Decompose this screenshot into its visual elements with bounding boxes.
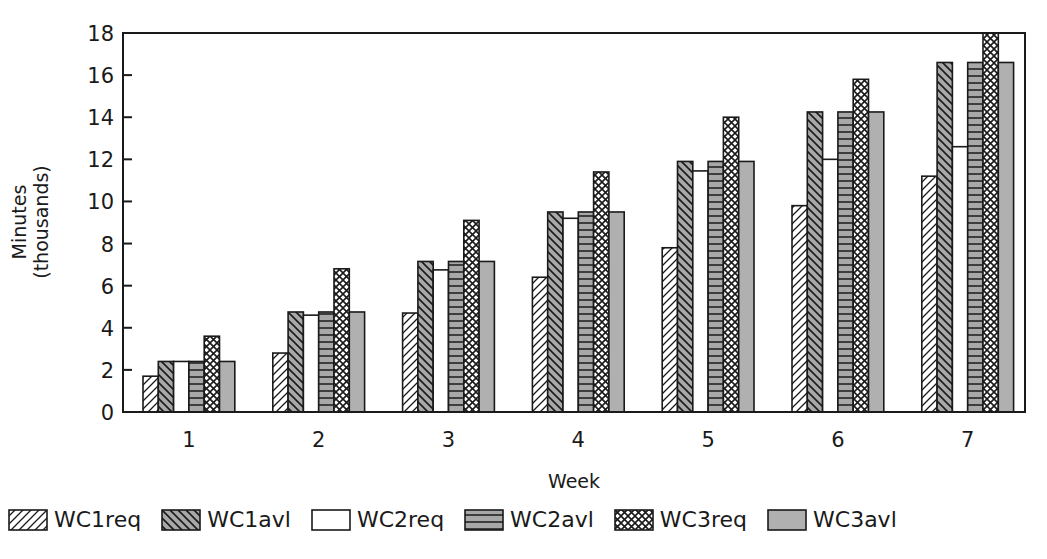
legend-swatch-horizontal-icon	[464, 509, 504, 531]
y-tick-label: 4	[101, 317, 114, 341]
legend-item-wc2avl: WC2avl	[464, 507, 594, 532]
bar-wc3req-week-5	[723, 117, 738, 412]
bar-wc2req-week-7	[952, 147, 967, 412]
bar-wc2avl-week-4	[578, 212, 593, 412]
bar-wc3req-week-6	[853, 79, 868, 412]
x-tick-label: 4	[572, 428, 585, 452]
bar-wc2req-week-6	[823, 159, 838, 412]
x-axis-title: Week	[548, 470, 600, 492]
bar-wc3avl-week-3	[479, 261, 494, 412]
y-tick-label: 14	[87, 106, 114, 130]
y-tick-label: 10	[87, 190, 114, 214]
legend-swatch-solid-icon	[767, 509, 807, 531]
bar-wc2req-week-4	[563, 218, 578, 412]
x-tick-label: 5	[701, 428, 714, 452]
bar-wc2req-week-3	[433, 270, 448, 412]
y-axis-title-line: Minutes	[8, 185, 30, 260]
legend-label: WC2req	[357, 507, 444, 532]
bar-wc2avl-week-6	[838, 112, 853, 412]
bar-chart: Minutes(thousands) 024681012141618 12345…	[0, 0, 1047, 500]
bar-wc2avl-week-7	[968, 62, 983, 412]
bar-wc2avl-week-3	[449, 261, 464, 412]
bar-wc3avl-week-5	[739, 161, 754, 412]
y-tick-label: 18	[87, 22, 114, 46]
bar-wc1avl-week-3	[418, 261, 433, 412]
bar-wc3req-week-3	[464, 220, 479, 412]
bar-wc1req-week-2	[273, 353, 288, 412]
x-axis: 1234567	[182, 428, 974, 452]
bar-wc1req-week-3	[403, 313, 418, 412]
legend-label: WC2avl	[510, 507, 594, 532]
bar-wc3avl-week-4	[609, 212, 624, 412]
bar-wc3req-week-1	[204, 336, 219, 412]
y-tick-label: 6	[101, 275, 114, 299]
bar-wc3avl-week-2	[349, 312, 364, 412]
bar-wc1req-week-4	[532, 277, 547, 412]
legend-swatch-diagonal-up-icon	[8, 509, 48, 531]
legend-label: WC3req	[660, 507, 747, 532]
x-tick-label: 2	[312, 428, 325, 452]
bar-wc2req-week-2	[303, 315, 318, 412]
legend-item-wc2req: WC2req	[311, 507, 444, 532]
legend-item-wc3req: WC3req	[614, 507, 747, 532]
bar-wc1avl-week-7	[937, 62, 952, 412]
bar-wc3avl-week-6	[869, 112, 884, 412]
x-tick-label: 3	[442, 428, 455, 452]
y-tick-label: 2	[101, 359, 114, 383]
legend-item-wc3avl: WC3avl	[767, 507, 897, 532]
y-tick-label: 16	[87, 64, 114, 88]
bar-wc2avl-week-5	[708, 161, 723, 412]
bar-wc3req-week-7	[983, 33, 998, 412]
y-tick-label: 8	[101, 233, 114, 257]
bar-wc1avl-week-5	[678, 161, 693, 412]
bar-wc2req-week-1	[174, 361, 189, 412]
legend-label: WC3avl	[813, 507, 897, 532]
y-tick-label: 0	[101, 401, 114, 425]
bar-wc2req-week-5	[693, 171, 708, 412]
y-axis-title: Minutes(thousands)	[8, 165, 52, 279]
bar-wc3req-week-4	[594, 172, 609, 412]
legend-label: WC1avl	[207, 507, 291, 532]
x-tick-label: 1	[182, 428, 195, 452]
bar-wc3req-week-2	[334, 269, 349, 412]
y-axis: 024681012141618	[87, 22, 132, 425]
legend-item-wc1req: WC1req	[8, 507, 141, 532]
x-tick-label: 7	[961, 428, 974, 452]
y-axis-title-line: (thousands)	[30, 165, 52, 279]
bar-series	[143, 33, 1014, 412]
legend-swatch-crosshatch-icon	[614, 509, 654, 531]
bar-wc1avl-week-6	[807, 112, 822, 412]
chart-legend: WC1reqWC1avlWC2reqWC2avlWC3reqWC3avl	[8, 507, 917, 532]
bar-wc1avl-week-1	[158, 361, 173, 412]
bar-wc1req-week-1	[143, 376, 158, 412]
bar-wc3avl-week-1	[220, 361, 235, 412]
bar-wc3avl-week-7	[998, 62, 1013, 412]
x-tick-label: 6	[831, 428, 844, 452]
bar-wc1req-week-5	[662, 248, 677, 412]
bar-wc1req-week-7	[922, 176, 937, 412]
bar-wc1avl-week-4	[548, 212, 563, 412]
legend-item-wc1avl: WC1avl	[161, 507, 291, 532]
legend-swatch-none-icon	[311, 509, 351, 531]
bar-wc1avl-week-2	[288, 312, 303, 412]
legend-label: WC1req	[54, 507, 141, 532]
bar-wc2avl-week-2	[319, 312, 334, 412]
bar-wc1req-week-6	[792, 206, 807, 412]
bar-wc2avl-week-1	[189, 361, 204, 412]
y-tick-label: 12	[87, 148, 114, 172]
legend-swatch-diagonal-down-icon	[161, 509, 201, 531]
